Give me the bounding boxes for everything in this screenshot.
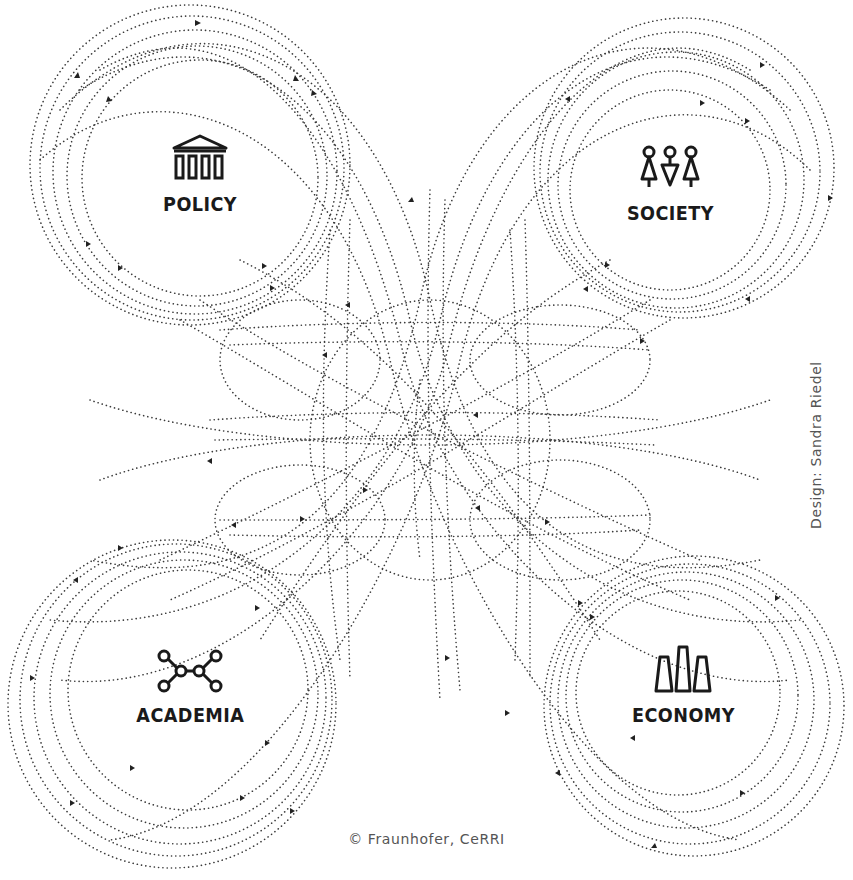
people-icon: [639, 145, 701, 191]
design-credit: Design: Sandra Riedel: [808, 361, 824, 529]
node-label-economy: ECONOMY: [632, 703, 735, 727]
node-policy: POLICY: [140, 125, 260, 225]
molecule-network-icon: [157, 649, 223, 693]
node-label-academia: ACADEMIA: [136, 703, 244, 727]
building-columns-icon: [171, 134, 229, 182]
copyright-credit: © Fraunhofer, CeRRI: [0, 831, 853, 847]
connection-paths: [0, 0, 853, 880]
node-label-policy: POLICY: [163, 192, 237, 216]
node-society: SOCIETY: [610, 140, 730, 230]
node-label-society: SOCIETY: [627, 201, 714, 225]
node-economy: ECONOMY: [618, 638, 748, 733]
bar-columns-icon: [650, 645, 716, 693]
node-academia: ACADEMIA: [115, 640, 265, 735]
